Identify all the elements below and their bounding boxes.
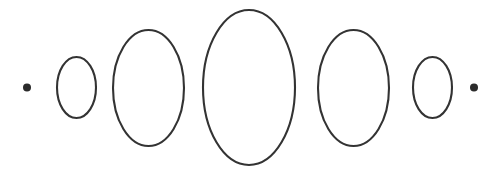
dot-left	[23, 84, 31, 92]
dot-right	[470, 84, 478, 92]
ellipse-progression-diagram: Ellipse size progression A horizontal sy…	[0, 0, 501, 175]
figure-canvas: Ellipse size progression A horizontal sy…	[0, 0, 501, 175]
figure-background	[0, 0, 501, 175]
